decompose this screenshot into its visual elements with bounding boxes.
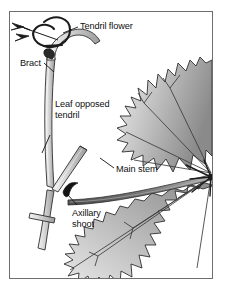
axillary-shoot-bud [63, 182, 78, 196]
label-tendril-flower: Tendril flower [80, 21, 133, 32]
lower-stem [29, 190, 55, 250]
bract-scale [44, 49, 55, 59]
label-leaf-opposed-tendril-line2: tendril [55, 110, 79, 121]
diagram-canvas [0, 0, 226, 299]
grape-leaf-upper [117, 57, 212, 173]
leaf-opposed-tendril-stalk [45, 58, 55, 188]
label-leaf-opposed-tendril-line1: Leaf opposed [55, 99, 110, 110]
label-main-stem: Main stem [116, 164, 157, 175]
label-axillary-shoot-line1: Axillary [72, 208, 101, 219]
label-bract: Bract [20, 58, 41, 69]
botanical-diagram: Tendril flower Bract Leaf opposed tendri… [0, 0, 226, 299]
label-axillary-shoot-line2: shoot [72, 219, 94, 230]
leader-main-stem [100, 158, 114, 168]
